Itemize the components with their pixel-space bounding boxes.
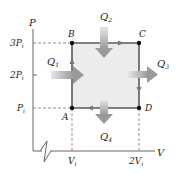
point-label-a: A (61, 112, 69, 122)
heat-label-q3: Q3 (157, 58, 169, 70)
p-axis-label: P (28, 17, 36, 28)
point-b (70, 41, 74, 45)
tick-label-pi: Pi (16, 103, 25, 114)
pv-diagram: P V 3Pi 2Pi Pi Vi 2Vi A B C D Q1 Q2 Q3 Q… (0, 0, 176, 176)
point-c (137, 41, 141, 45)
tick-label-2vi: 2Vi (128, 156, 143, 167)
point-a (70, 106, 74, 110)
heat-label-q1: Q1 (47, 56, 59, 68)
point-label-c: C (139, 29, 146, 39)
point-d (137, 106, 141, 110)
tick-label-2pi: 2Pi (9, 70, 24, 81)
v-axis-label: V (157, 147, 166, 158)
point-label-d: D (144, 103, 152, 113)
heat-label-q4: Q4 (100, 131, 112, 143)
tick-label-vi: Vi (68, 156, 77, 167)
point-label-b: B (67, 29, 75, 39)
heat-label-q2: Q2 (100, 11, 112, 23)
tick-label-3pi: 3Pi (10, 38, 24, 49)
